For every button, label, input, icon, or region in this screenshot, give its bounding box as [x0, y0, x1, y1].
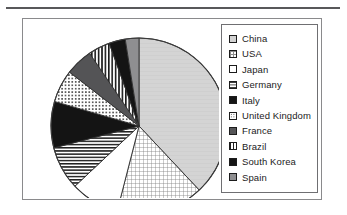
legend-label-spain: Spain	[242, 170, 267, 185]
legend-item-brazil[interactable]: Brazil	[229, 139, 317, 154]
legend-item-germany[interactable]: Germany	[229, 77, 317, 92]
figure-panel: China USA Japan Germany Italy United Kin…	[22, 18, 322, 200]
legend-item-united-kingdom[interactable]: United Kingdom	[229, 108, 317, 123]
legend-item-china[interactable]: China	[229, 31, 317, 46]
legend-label-united-kingdom: United Kingdom	[242, 108, 311, 123]
legend-swatch-south-korea-icon	[229, 158, 237, 166]
legend-swatch-united-kingdom-icon	[229, 112, 237, 120]
pie-chart-svg	[23, 19, 219, 198]
legend-item-france[interactable]: France	[229, 123, 317, 138]
legend-label-france: France	[242, 123, 272, 138]
legend-item-italy[interactable]: Italy	[229, 93, 317, 108]
legend-label-japan: Japan	[242, 62, 268, 77]
pie-slices-group	[51, 38, 219, 198]
top-horizontal-rule	[6, 7, 340, 9]
legend-label-italy: Italy	[242, 93, 260, 108]
legend-swatch-japan-icon	[229, 65, 237, 73]
legend-label-germany: Germany	[242, 77, 282, 92]
legend-label-china: China	[242, 31, 267, 46]
legend-item-usa[interactable]: USA	[229, 46, 317, 61]
legend-swatch-usa-icon	[229, 50, 237, 58]
legend-swatch-spain-icon	[229, 173, 237, 181]
legend-label-south-korea: South Korea	[242, 154, 296, 169]
chart-legend: China USA Japan Germany Italy United Kin…	[221, 24, 318, 193]
legend-swatch-china-icon	[229, 35, 237, 43]
legend-item-japan[interactable]: Japan	[229, 62, 317, 77]
legend-label-usa: USA	[242, 46, 262, 61]
legend-item-spain[interactable]: Spain	[229, 170, 317, 185]
legend-swatch-germany-icon	[229, 81, 237, 89]
legend-swatch-italy-icon	[229, 96, 237, 104]
legend-item-south-korea[interactable]: South Korea	[229, 154, 317, 169]
pie-chart-area	[23, 19, 219, 198]
legend-swatch-brazil-icon	[229, 142, 237, 150]
legend-swatch-france-icon	[229, 127, 237, 135]
legend-label-brazil: Brazil	[242, 139, 266, 154]
